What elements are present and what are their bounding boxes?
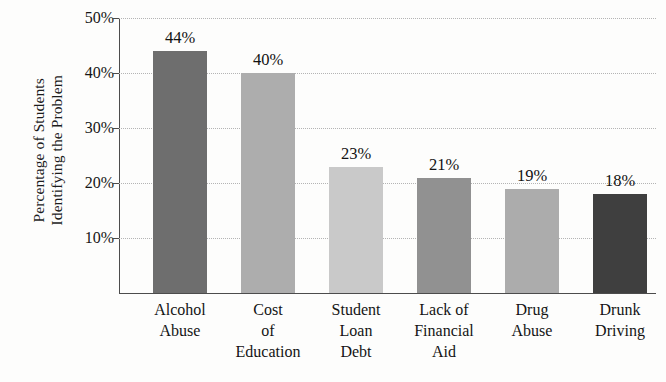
- x-axis-category-labels: AlcoholAbuse CostofEducation StudentLoan…: [119, 299, 656, 379]
- bar-alcohol-abuse[interactable]: [153, 51, 207, 293]
- category-label-cost-of-education: CostofEducation: [224, 299, 312, 362]
- bar-value-label-cost-of-education: 40%: [228, 51, 308, 68]
- y-axis-title-line-1: Percentage of Students: [30, 75, 48, 225]
- bar-value-label-student-loan-debt: 23%: [316, 145, 396, 162]
- y-tick-label-50: 50%: [60, 10, 114, 26]
- category-label-line: Student: [312, 299, 400, 320]
- category-label-line: Education: [224, 341, 312, 362]
- category-label-line: Cost: [224, 299, 312, 320]
- category-label-line: Alcohol: [136, 299, 224, 320]
- bar-student-loan-debt[interactable]: [329, 167, 383, 294]
- x-axis-line: [119, 293, 656, 294]
- y-tick-label-20: 20%: [60, 175, 114, 191]
- bar-value-label-drug-abuse: 19%: [492, 167, 572, 184]
- bar-chart: Percentage of Students Identifying the P…: [0, 0, 666, 382]
- category-label-line: Lack of: [400, 299, 488, 320]
- category-label-line: Financial: [400, 320, 488, 341]
- category-label-line: Drug: [488, 299, 576, 320]
- bar-drug-abuse[interactable]: [505, 189, 559, 294]
- category-label-line: Abuse: [136, 320, 224, 341]
- category-label-line: Aid: [400, 341, 488, 362]
- category-label-line: of: [224, 320, 312, 341]
- category-label-drug-abuse: DrugAbuse: [488, 299, 576, 341]
- category-label-drunk-driving: DrunkDriving: [576, 299, 664, 341]
- category-label-line: Drunk: [576, 299, 664, 320]
- y-axis-tick-labels: 50% 40% 30% 20% 10%: [52, 0, 114, 300]
- bar-lack-of-financial-aid[interactable]: [417, 178, 471, 294]
- bar-drunk-driving[interactable]: [593, 194, 647, 293]
- bar-value-label-drunk-driving: 18%: [580, 172, 660, 189]
- y-tick-label-10: 10%: [60, 230, 114, 246]
- bar-value-label-alcohol-abuse: 44%: [140, 29, 220, 46]
- category-label-alcohol-abuse: AlcoholAbuse: [136, 299, 224, 341]
- category-label-line: Abuse: [488, 320, 576, 341]
- category-label-lack-of-financial-aid: Lack ofFinancialAid: [400, 299, 488, 362]
- y-tick-label-30: 30%: [60, 120, 114, 136]
- bar-value-label-lack-of-financial-aid: 21%: [404, 156, 484, 173]
- gridline-50: [119, 18, 656, 19]
- category-label-student-loan-debt: StudentLoanDebt: [312, 299, 400, 362]
- category-label-line: Debt: [312, 341, 400, 362]
- category-label-line: Driving: [576, 320, 664, 341]
- plot-area: 44% 40% 23% 21% 19% 18%: [119, 18, 656, 293]
- y-tick-label-40: 40%: [60, 65, 114, 81]
- bar-cost-of-education[interactable]: [241, 73, 295, 293]
- category-label-line: Loan: [312, 320, 400, 341]
